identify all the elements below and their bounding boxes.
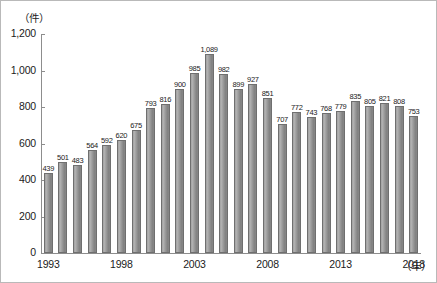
bar[interactable]: 982 [219,74,228,253]
x-axis-tick-label: 2003 [183,258,206,270]
bar-item[interactable]: 779 [336,34,345,253]
y-axis-tick-label: 800 [19,100,36,112]
y-axis-tick-label: 1,200 [11,27,36,39]
bar-value-label: 743 [306,108,318,117]
bar-value-label: 753 [408,107,420,116]
bar[interactable]: 501 [58,162,67,253]
bar-value-label: 501 [57,153,69,162]
bar[interactable]: 808 [395,106,404,253]
bar-item[interactable]: 1,089 [205,34,214,253]
bar-value-label: 821 [379,94,391,103]
bar-item[interactable]: 816 [161,34,170,253]
bar-value-label: 985 [189,64,201,73]
bar-value-label: 592 [101,136,113,145]
bar-value-label: 982 [218,65,230,74]
bar[interactable]: 1,089 [205,54,214,253]
bar-item[interactable]: 592 [102,34,111,253]
bar-value-label: 779 [335,102,347,111]
bar-value-label: 439 [42,164,54,173]
bar-item[interactable]: 821 [380,34,389,253]
bar-value-label: 808 [393,97,405,106]
x-axis-tick-label: 2008 [256,258,279,270]
bar[interactable]: 793 [146,108,155,253]
plot-area: 02004006008001,0001,200 4395014835645926… [41,34,421,253]
bar-value-label: 900 [174,80,186,89]
bar-item[interactable]: 620 [117,34,126,253]
bar[interactable]: 592 [102,145,111,253]
bar[interactable]: 900 [175,89,184,253]
bar-value-label: 899 [232,80,244,89]
bar-item[interactable]: 985 [190,34,199,253]
bar-value-label: 835 [349,92,361,101]
bar-value-label: 564 [86,141,98,150]
bar-chart-figure: （件） 02004006008001,0001,200 439501483564… [0,0,437,283]
bar[interactable]: 675 [132,130,141,253]
bar[interactable]: 772 [292,112,301,253]
bar[interactable]: 483 [73,165,82,253]
y-axis-tick-mark [41,253,45,254]
bar-value-label: 707 [276,115,288,124]
bar[interactable]: 768 [322,113,331,253]
y-axis-tick-label: 1,000 [11,64,36,76]
bar-item[interactable]: 483 [73,34,82,253]
bar[interactable]: 779 [336,111,345,253]
bar[interactable]: 985 [190,73,199,253]
bar-item[interactable]: 899 [234,34,243,253]
y-axis-tick-label: 400 [19,173,36,185]
bar-item[interactable]: 501 [58,34,67,253]
bar-item[interactable]: 851 [263,34,272,253]
bar-value-label: 768 [320,104,332,113]
x-axis-tick-label: 1998 [110,258,133,270]
y-axis-tick-label: 0 [30,246,36,258]
bar-item[interactable]: 982 [219,34,228,253]
bar-value-label: 793 [145,99,157,108]
bar-item[interactable]: 793 [146,34,155,253]
bar-item[interactable]: 743 [307,34,316,253]
bar-item[interactable]: 439 [44,34,53,253]
bar[interactable]: 707 [278,124,287,253]
bar[interactable]: 743 [307,117,316,253]
bar-item[interactable]: 753 [409,34,418,253]
bar-item[interactable]: 900 [175,34,184,253]
bar-item[interactable]: 707 [278,34,287,253]
bar-value-label: 927 [247,75,259,84]
bar-value-label: 851 [262,89,274,98]
bar[interactable]: 851 [263,98,272,253]
bar[interactable]: 899 [234,89,243,253]
bar[interactable]: 620 [117,140,126,253]
bar-item[interactable]: 805 [365,34,374,253]
bar-item[interactable]: 772 [292,34,301,253]
y-axis-tick-label: 200 [19,210,36,222]
bar[interactable]: 816 [161,104,170,253]
bar-item[interactable]: 808 [395,34,404,253]
bar-item[interactable]: 835 [351,34,360,253]
bar-item[interactable]: 564 [88,34,97,253]
bar-value-label: 772 [291,103,303,112]
bar[interactable]: 805 [365,106,374,253]
x-axis-tick-label: 1993 [37,258,60,270]
bar-value-label: 483 [72,156,84,165]
bar[interactable]: 564 [88,150,97,253]
bar-item[interactable]: 675 [132,34,141,253]
bar-value-label: 816 [159,95,171,104]
x-axis-unit-caption: （年） [401,258,430,273]
bar-item[interactable]: 768 [322,34,331,253]
bar[interactable]: 927 [248,84,257,253]
bar[interactable]: 835 [351,101,360,253]
bar-value-label: 620 [116,131,128,140]
y-axis-tick-label: 600 [19,137,36,149]
bar[interactable]: 439 [44,173,53,253]
x-axis-tick-label: 2013 [329,258,352,270]
bar-value-label: 675 [130,121,142,130]
x-axis-line [41,253,421,254]
bar-value-label: 805 [364,97,376,106]
bar[interactable]: 753 [409,116,418,253]
y-axis-unit-caption: （件） [19,10,48,25]
bar-item[interactable]: 927 [248,34,257,253]
bar-value-label: 1,089 [200,45,217,54]
bar[interactable]: 821 [380,103,389,253]
